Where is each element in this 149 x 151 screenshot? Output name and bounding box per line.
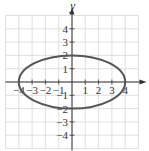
x-axis-arrow-icon xyxy=(140,80,147,85)
y-tick-label: 3 xyxy=(63,36,69,48)
y-tick-label: −3 xyxy=(56,116,68,128)
x-tick-label: 2 xyxy=(96,84,102,96)
x-tick-label: 1 xyxy=(83,84,89,96)
x-tick-label: −3 xyxy=(26,84,38,96)
ellipse-graph: −4−3−2−11234−4−3−2−11234xy xyxy=(0,0,148,151)
y-axis-label: y xyxy=(69,0,76,13)
x-tick-label: −2 xyxy=(40,84,52,96)
x-axis-label: x xyxy=(148,75,149,89)
x-tick-label: 3 xyxy=(109,84,115,96)
y-tick-label: −1 xyxy=(56,89,68,101)
y-tick-label: 1 xyxy=(63,63,69,75)
y-tick-label: 4 xyxy=(63,23,69,35)
y-tick-label: −4 xyxy=(56,129,68,141)
